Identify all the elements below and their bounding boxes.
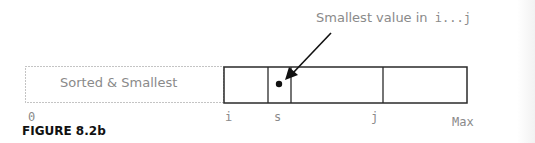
callout-label: Smallest value in i...j [316,10,471,26]
unsorted-region-box [224,67,467,103]
callout-text: Smallest value in [316,10,428,25]
index-label-max: Max [452,115,474,129]
sorted-region-label: Sorted & Smallest [60,75,177,90]
index-label-i: i [225,110,232,124]
smallest-value-dot-icon [276,81,282,87]
index-label-j: j [371,110,378,124]
figure-canvas: Smallest value in i...j Sorted & Smalles… [0,0,535,143]
callout-range: i...j [435,11,471,25]
index-label-zero: 0 [28,110,35,124]
figure-caption: FIGURE 8.2b [22,124,106,138]
index-label-s: s [274,110,281,124]
callout-arrow-line [292,33,331,74]
page-edge-shadow [517,0,535,143]
